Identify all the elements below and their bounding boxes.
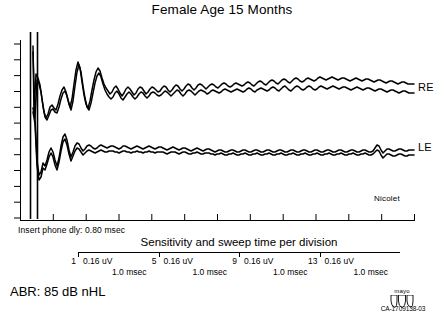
sweep-time-value: 1.0 msec: [273, 267, 308, 277]
trace-re-replication-b: [33, 52, 414, 120]
sensitivity-value: 0.16 uV: [164, 256, 193, 266]
trace-label-left-ear: LE: [418, 141, 432, 153]
sensitivity-tick: [239, 252, 240, 257]
sensitivity-heading: Sensitivity and sweep time per division: [74, 236, 404, 248]
trace-le-replication-a: [33, 108, 414, 175]
insert-phone-delay-label: Insert phone dly: 0.80 msec: [18, 225, 125, 235]
sweep-time-value: 1.0 msec: [193, 267, 228, 277]
y-axis: [14, 40, 21, 221]
sensitivity-division-number: 13: [298, 256, 318, 266]
y-axis-ticks: [14, 44, 21, 218]
trace-group: [33, 46, 414, 180]
sensitivity-division-number: 5: [137, 256, 157, 266]
sensitivity-value: 0.16 uV: [244, 256, 273, 266]
sensitivity-value: 0.16 uV: [83, 256, 112, 266]
sensitivity-tick: [78, 252, 79, 257]
trace-label-right-ear: RE: [418, 81, 434, 93]
sensitivity-tick: [320, 252, 321, 257]
abr-level-label: ABR: 85 dB nHL: [10, 284, 105, 299]
abr-chart-page: Female Age 15 Months RE LE Nicolet Inser…: [0, 0, 444, 325]
catalog-number: CA-1709138-03: [366, 305, 440, 312]
vendor-label: Nicolet: [374, 194, 400, 203]
mayo-wordmark: mayo: [382, 288, 422, 295]
sensitivity-scale: 10.16 uV1.0 msec50.16 uV1.0 msec90.16 uV…: [74, 252, 404, 280]
sweep-time-value: 1.0 msec: [112, 267, 147, 277]
sweep-time-value: 1.0 msec: [354, 267, 389, 277]
sensitivity-tick: [159, 252, 160, 257]
sensitivity-value: 0.16 uV: [325, 256, 354, 266]
sensitivity-division-number: 9: [217, 256, 237, 266]
stimulus-artifact-bars: [31, 32, 38, 219]
x-axis: [20, 214, 415, 221]
x-axis-ticks: [21, 214, 415, 221]
sensitivity-division-number: 1: [56, 256, 76, 266]
